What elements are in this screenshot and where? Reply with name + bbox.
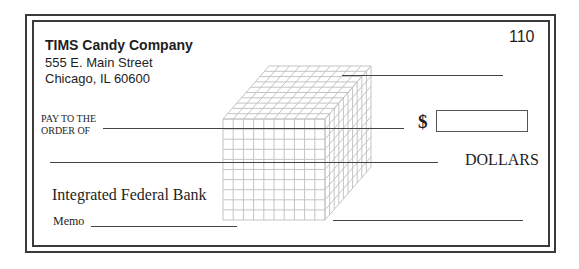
check-number: 110 — [509, 28, 535, 46]
pay-to-label-line1: PAY TO THE — [41, 113, 96, 124]
pay-to-label-line2: ORDER OF — [41, 125, 90, 136]
memo-line[interactable] — [91, 226, 237, 227]
payee-line[interactable] — [103, 128, 404, 129]
signature-line[interactable] — [333, 220, 523, 221]
amount-in-words-line[interactable] — [50, 162, 438, 163]
company-address-city: Chicago, IL 60600 — [45, 71, 150, 86]
amount-box[interactable] — [436, 110, 528, 132]
company-address-street: 555 E. Main Street — [45, 55, 153, 70]
date-line[interactable] — [342, 75, 503, 76]
company-name: TIMS Candy Company — [45, 37, 193, 53]
memo-label: Memo — [53, 214, 84, 229]
bank-name: Integrated Federal Bank — [52, 186, 207, 204]
dollar-sign: $ — [418, 111, 428, 133]
dollars-label: DOLLARS — [465, 151, 539, 169]
